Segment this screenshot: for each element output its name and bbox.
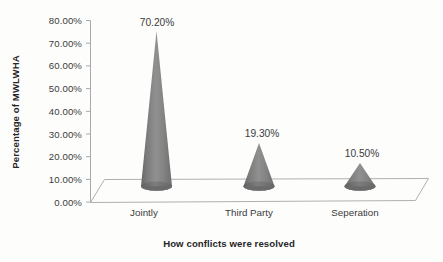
cone-bar-seperation [345, 163, 376, 191]
y-tick-label: 60.00% [49, 60, 83, 71]
chart-canvas: 80.00% 70.00% 60.00% 50.00% 40.00% 30.00… [0, 0, 443, 262]
x-category-label-jointly: Jointly [130, 207, 158, 218]
x-axis-title: How conflicts were resolved [163, 238, 295, 249]
y-axis-title: Percentage of MWLWHA [10, 55, 21, 168]
cone-chart: 80.00% 70.00% 60.00% 50.00% 40.00% 30.00… [0, 0, 443, 262]
y-tick-label: 40.00% [49, 106, 83, 117]
y-tick-label: 10.00% [49, 174, 83, 185]
data-label-third-party: 19.30% [245, 128, 280, 139]
y-tick-label: 20.00% [49, 151, 83, 162]
data-label-seperation: 10.50% [345, 148, 380, 159]
y-axis-tick-labels: 80.00% 70.00% 60.00% 50.00% 40.00% 30.00… [49, 15, 83, 208]
data-label-jointly: 70.20% [140, 17, 175, 28]
x-category-label-seperation: Seperation [331, 207, 378, 218]
cone-bar-third-party [244, 143, 275, 191]
y-tick-label: 80.00% [49, 15, 83, 26]
x-category-label-third-party: Third Party [225, 207, 273, 218]
y-tick-label: 30.00% [49, 129, 83, 140]
y-tick-label: 50.00% [49, 83, 83, 94]
y-tick-label: 70.00% [49, 38, 83, 49]
y-axis-ticks [86, 21, 91, 203]
cone-bar-jointly [141, 31, 172, 191]
y-tick-label: 0.00% [54, 197, 82, 208]
